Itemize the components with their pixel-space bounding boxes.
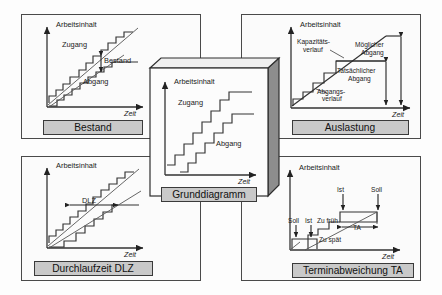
bestand-label-abgang: Abgang <box>83 77 108 86</box>
auslastung-label-abgang1: Abgang <box>361 49 384 57</box>
ta-label-zu-spaet: Zu spät <box>319 236 341 244</box>
auslastung-y-axis-label: Arbeitsinhalt <box>300 20 341 29</box>
ta-label-ist-left: Ist <box>305 217 312 224</box>
bestand-x-axis-label: Zeit <box>123 109 137 118</box>
dlz-label: DLZ <box>82 196 96 205</box>
center-x-axis-label: Zeit <box>237 177 251 186</box>
auslastung-label-verlauf1: verlauf <box>303 46 323 53</box>
bestand-label-bestand: Bestand <box>104 56 131 65</box>
auslastung-label-moeglicher: Möglicher <box>355 41 384 49</box>
center-grunddiagramm: Arbeitsinhalt Zugang Abgang Zeit Grunddi… <box>150 58 279 202</box>
bestand-y-axis-label: Arbeitsinhalt <box>56 20 97 29</box>
dlz-caption: Durchlaufzeit DLZ <box>52 263 134 274</box>
dlz-y-axis-label: Arbeitsinhalt <box>56 161 97 170</box>
center-box-front-face <box>150 68 268 196</box>
ta-label-ta: TA <box>353 224 362 231</box>
center-label-zugang: Zugang <box>178 98 203 107</box>
ta-y-axis-label: Arbeitsinhalt <box>299 163 340 172</box>
diagram-svg: Zugang Bestand Abgang Arbeitsinhalt Zeit… <box>0 0 442 295</box>
ta-label-ist-right: Ist <box>337 186 344 193</box>
diagram-canvas: Zugang Bestand Abgang Arbeitsinhalt Zeit… <box>0 0 442 295</box>
auslastung-label-tatsaechlicher: Tatsächlicher <box>337 67 376 74</box>
ta-label-soll-left: Soll <box>288 217 300 224</box>
auslastung-label-abgang2: Abgang <box>348 75 371 83</box>
ta-x-axis-label: Zeit <box>381 252 395 261</box>
bestand-caption: Bestand <box>74 122 112 133</box>
bestand-label-zugang: Zugang <box>62 40 87 49</box>
auslastung-x-axis-label: Zeit <box>391 110 405 119</box>
auslastung-label-kapazitaets: Kapazitäts- <box>297 38 330 46</box>
center-box-side-face <box>268 58 279 196</box>
ta-label-soll-right: Soll <box>371 186 383 193</box>
ta-label-zu-frueh: Zu früh <box>317 217 338 224</box>
center-caption: Grunddiagramm <box>172 189 246 200</box>
center-box-top-face <box>150 58 279 68</box>
center-y-axis-label: Arbeitsinhalt <box>174 77 215 86</box>
auslastung-caption: Auslastung <box>325 122 376 133</box>
ta-caption: Terminabweichung TA <box>303 265 403 276</box>
center-label-abgang: Abgang <box>216 139 241 148</box>
dlz-x-axis-label: Zeit <box>123 250 137 259</box>
auslastung-label-verlauf2: verlauf <box>322 95 342 102</box>
